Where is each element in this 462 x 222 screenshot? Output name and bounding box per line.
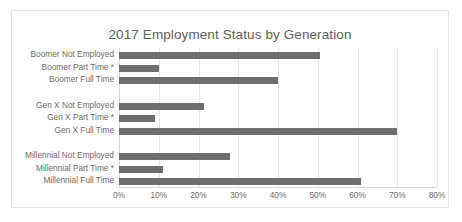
bar-row: Millennial Full Time: [119, 174, 437, 187]
bar-row: [119, 86, 437, 99]
x-tick-label: 0%: [113, 190, 125, 200]
category-label: Gen X Part Time *: [47, 112, 114, 123]
category-label: Boomer Part Time *: [42, 62, 114, 73]
bar[interactable]: [119, 77, 278, 84]
x-tick-label: 30%: [230, 190, 247, 200]
bar[interactable]: [119, 178, 361, 185]
bar-row: Gen X Part Time *: [119, 111, 437, 124]
category-label: Millennial Part Time *: [36, 163, 114, 174]
category-label: Millennial Full Time: [43, 175, 114, 186]
bar-row: Millennial Part Time *: [119, 162, 437, 175]
category-label: Gen X Full Time: [55, 125, 114, 136]
bar-row: Millennial Not Employed: [119, 149, 437, 162]
bar-row: Boomer Full Time: [119, 73, 437, 86]
bar[interactable]: [119, 115, 155, 122]
x-tick-label: 10%: [150, 190, 167, 200]
x-axis-line: [119, 187, 437, 188]
bar-row: Boomer Part Time *: [119, 61, 437, 74]
bar-row: Gen X Not Employed: [119, 99, 437, 112]
x-tick-label: 50%: [309, 190, 326, 200]
plot-area: Boomer Not EmployedBoomer Part Time *Boo…: [119, 48, 437, 187]
bar-row: Boomer Not Employed: [119, 48, 437, 61]
x-tick-label: 40%: [270, 190, 287, 200]
category-label: Boomer Not Employed: [31, 49, 114, 60]
x-tick-label: 20%: [190, 190, 207, 200]
bar-row: [119, 136, 437, 149]
chart-title: 2017 Employment Status by Generation: [12, 27, 448, 42]
bar[interactable]: [119, 166, 163, 173]
bar[interactable]: [119, 128, 397, 135]
x-tick-label: 70%: [389, 190, 406, 200]
category-label: Boomer Full Time: [49, 74, 114, 85]
category-label: Gen X Not Employed: [36, 100, 114, 111]
bar-row: Gen X Full Time: [119, 124, 437, 137]
bar[interactable]: [119, 103, 204, 110]
x-tick-label: 60%: [349, 190, 366, 200]
bar[interactable]: [119, 52, 320, 59]
x-tick-label: 80%: [429, 190, 446, 200]
chart-container: 2017 Employment Status by Generation Boo…: [11, 10, 449, 208]
category-label: Millennial Not Employed: [25, 150, 114, 161]
bar[interactable]: [119, 153, 230, 160]
gridline-80%: [437, 48, 438, 187]
bar[interactable]: [119, 65, 159, 72]
